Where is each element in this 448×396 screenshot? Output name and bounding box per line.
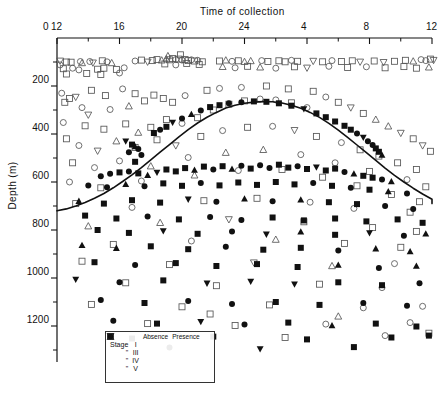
legend-ditto-1: " — [108, 349, 130, 357]
data-point-presence-triangle-up — [329, 322, 336, 328]
data-point-presence-triangle-up — [79, 242, 86, 248]
data-point-absence-circle — [70, 65, 76, 71]
data-point-absence-circle — [217, 85, 223, 91]
data-point-presence-square — [182, 165, 188, 171]
data-point-absence-square — [204, 87, 210, 93]
data-point-presence-circle — [382, 203, 388, 209]
legend-stage-numeral: I — [130, 341, 141, 349]
data-point-absence-triangle-down — [72, 94, 79, 100]
data-point-absence-square — [423, 184, 429, 190]
data-point-presence-square — [420, 220, 426, 226]
data-point-presence-circle — [229, 228, 235, 234]
data-point-presence-square — [201, 164, 207, 170]
data-point-presence-square — [388, 335, 394, 341]
data-point-presence-square — [82, 213, 88, 219]
data-point-absence-triangle-up — [222, 149, 229, 155]
data-point-presence-square — [295, 264, 301, 270]
data-point-presence-triangle-up — [144, 172, 151, 178]
data-point-absence-square — [265, 59, 271, 65]
data-point-presence-square — [326, 199, 332, 205]
data-point-presence-circle — [126, 149, 132, 155]
data-point-absence-circle — [404, 177, 410, 183]
data-point-presence-triangle-up — [188, 111, 195, 117]
data-point-absence-square — [148, 124, 154, 130]
data-point-absence-square — [101, 65, 107, 71]
data-point-presence-square — [220, 163, 226, 169]
data-point-absence-circle — [59, 90, 65, 96]
data-point-presence-square — [92, 259, 98, 265]
data-point-presence-square — [335, 279, 341, 285]
data-point-presence-square — [113, 216, 119, 222]
data-point-presence-square — [176, 216, 182, 222]
data-point-presence-square — [163, 167, 169, 173]
data-point-presence-circle — [238, 163, 244, 169]
y-tick-label: 200 — [15, 74, 49, 85]
data-point-presence-square — [301, 217, 307, 223]
data-point-absence-square — [345, 65, 351, 71]
data-point-presence-circle — [401, 233, 407, 239]
data-point-absence-square — [84, 71, 90, 77]
data-point-presence-circle — [117, 279, 123, 285]
data-point-absence-square — [398, 244, 404, 250]
data-point-presence-circle — [198, 108, 204, 114]
data-point-presence-square — [332, 232, 338, 238]
data-point-presence-circle — [107, 171, 113, 177]
data-point-presence-circle — [295, 163, 301, 169]
legend-table: Absence Presence Stage I " III — [108, 333, 202, 373]
data-point-presence-circle — [98, 173, 104, 179]
data-point-absence-circle — [76, 67, 82, 73]
data-point-absence-circle — [407, 320, 413, 326]
data-point-absence-square — [320, 174, 326, 180]
legend-marker-absence-open-triangle-up-icon — [141, 341, 170, 349]
data-point-absence-triangle-down — [94, 148, 101, 154]
data-point-absence-circle — [185, 155, 191, 161]
data-point-absence-triangle-up — [385, 123, 392, 129]
data-point-presence-circle — [145, 214, 151, 220]
legend-marker-presence-filled-circle-icon — [170, 365, 201, 373]
data-point-absence-triangle-up — [222, 57, 229, 63]
x-tick-label: 12 — [51, 21, 62, 32]
data-point-absence-triangle-down — [419, 143, 426, 149]
data-point-absence-square — [276, 58, 282, 64]
data-point-absence-square — [217, 58, 223, 64]
legend-header-presence: Presence — [170, 333, 201, 341]
data-point-presence-square — [276, 162, 282, 168]
data-point-absence-triangle-down — [347, 105, 354, 111]
data-point-absence-square — [392, 58, 398, 64]
data-point-presence-square — [132, 159, 138, 165]
data-point-presence-circle — [179, 116, 185, 122]
data-point-presence-circle — [310, 180, 316, 186]
data-point-presence-circle — [360, 300, 366, 306]
data-point-presence-triangle-down — [204, 281, 211, 287]
data-point-presence-square — [160, 277, 166, 283]
data-point-absence-square — [151, 92, 157, 98]
data-point-absence-square — [235, 58, 241, 64]
data-point-absence-square — [113, 66, 119, 72]
data-point-absence-triangle-up — [125, 103, 132, 109]
data-point-absence-square — [360, 110, 366, 116]
data-point-presence-circle — [104, 184, 110, 190]
data-point-absence-circle — [323, 321, 329, 327]
data-point-presence-square — [154, 321, 160, 327]
data-point-absence-square — [417, 199, 423, 205]
data-point-absence-circle — [76, 143, 82, 149]
data-point-presence-square — [260, 247, 266, 253]
data-point-presence-triangle-up — [413, 262, 420, 268]
data-point-absence-triangle-up — [135, 129, 142, 135]
data-point-presence-square — [332, 119, 338, 125]
data-point-absence-square — [154, 137, 160, 143]
data-point-absence-triangle-down — [310, 58, 317, 64]
data-point-absence-circle — [326, 63, 332, 69]
data-point-presence-triangle-down — [263, 232, 270, 238]
x-tick-label: 20 — [176, 21, 187, 32]
data-point-absence-square — [232, 323, 238, 329]
data-point-presence-square — [395, 216, 401, 222]
data-point-presence-square — [173, 260, 179, 266]
data-point-absence-square — [413, 65, 419, 71]
data-point-presence-square — [304, 336, 310, 342]
data-point-presence-triangle-up — [372, 245, 379, 251]
data-point-absence-circle — [129, 204, 135, 210]
data-point-presence-square — [413, 324, 419, 330]
data-point-absence-square — [167, 262, 173, 268]
data-point-presence-square — [148, 243, 154, 249]
